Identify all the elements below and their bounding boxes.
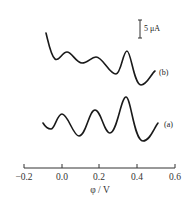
x-tick-label: 0.4 xyxy=(131,172,143,182)
x-tick-label: −0.2 xyxy=(15,172,32,182)
x-tick-label: 0.2 xyxy=(93,172,105,182)
scale-bar-label: 5 μA xyxy=(144,24,160,33)
x-axis: −0.2 0.0 0.2 0.4 0.6 φ / V xyxy=(15,164,181,195)
x-tick-label: 0.0 xyxy=(56,172,68,182)
scale-bar: 5 μA xyxy=(138,20,160,38)
curve-b xyxy=(46,33,155,85)
curve-a-label: (a) xyxy=(164,120,173,129)
x-axis-title: φ / V xyxy=(90,185,110,195)
curve-b-label: (b) xyxy=(159,68,169,77)
chart: 5 μA (b) (a) −0.2 0.0 0.2 0.4 0.6 φ / V xyxy=(0,0,189,206)
curve-a xyxy=(43,97,158,141)
x-tick-label: 0.6 xyxy=(169,172,181,182)
